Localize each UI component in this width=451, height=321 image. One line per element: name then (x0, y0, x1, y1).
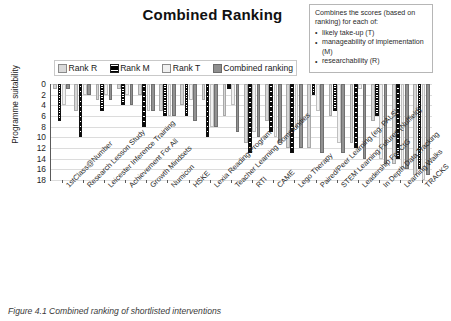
legend-label: Rank R (69, 63, 98, 73)
legend-item-rank-r: Rank R (58, 63, 97, 73)
bar (74, 84, 78, 111)
legend-label: Rank T (173, 63, 201, 73)
bar (193, 84, 197, 121)
bar (257, 84, 261, 137)
bar (130, 84, 134, 105)
bar (147, 84, 151, 111)
bar (138, 84, 142, 95)
bar (244, 84, 248, 143)
x-axis-tick-labels: 1stClass@NumberResearch Lesson StudyLeic… (50, 183, 431, 295)
bar (236, 84, 240, 132)
bullet-icon: • (315, 57, 317, 66)
legend-swatch-icon (58, 64, 67, 73)
bar (358, 84, 362, 89)
y-axis-tick-label: 6 (41, 111, 46, 121)
legend-label: Combined ranking (223, 63, 293, 73)
bar (168, 84, 172, 116)
y-axis-title: Programme suitability (11, 59, 20, 151)
bar (125, 84, 129, 95)
bar (62, 84, 66, 105)
bar (274, 84, 278, 137)
callout-item-label: manageability of implementation (M) (322, 38, 424, 55)
bullet-icon: • (315, 38, 317, 47)
bar (58, 84, 62, 121)
bar (159, 84, 163, 111)
y-axis-tick-label: 18 (37, 175, 46, 185)
bar (231, 84, 235, 105)
y-axis-tick-label: 8 (41, 122, 46, 132)
bar (96, 84, 100, 100)
y-axis-tick-label: 10 (37, 132, 46, 142)
legend-item-rank-m: Rank M (110, 63, 150, 73)
bullet-icon: • (315, 28, 317, 37)
bar-group (199, 84, 220, 180)
legend-swatch-icon (213, 64, 222, 73)
figure-caption: Figure 4.1 Combined ranking of shortlist… (8, 306, 221, 316)
bar (341, 84, 345, 153)
bar (121, 84, 125, 105)
bar (320, 84, 324, 153)
bar (354, 84, 358, 148)
bar (202, 84, 206, 100)
legend-item-rank-t: Rank T (162, 63, 200, 73)
bar (185, 84, 189, 116)
legend-item-combined-ranking: Combined ranking (213, 63, 293, 73)
bar (312, 84, 316, 95)
callout-lead-text: Combines the scores (based on ranking) f… (315, 9, 427, 28)
y-axis-tick-label: 14 (37, 154, 46, 164)
bar-group (51, 84, 72, 180)
bar (290, 84, 294, 153)
callout-item-label: likely take-up (T) (322, 29, 374, 37)
page-title: Combined Ranking (120, 6, 305, 23)
bar (66, 84, 70, 89)
bar (189, 84, 193, 100)
y-axis-tick-label: 4 (41, 100, 46, 110)
bar (333, 84, 337, 111)
bar (53, 84, 57, 89)
legend-label: Rank M (120, 63, 150, 73)
callout-box: Combines the scores (based on ranking) f… (309, 4, 433, 73)
bar (109, 84, 113, 100)
legend-swatch-icon (162, 64, 171, 73)
callout-list-item: • manageability of implementation (M) (315, 38, 427, 57)
bar (83, 84, 87, 95)
bar (163, 84, 167, 116)
bar (87, 84, 91, 95)
legend-swatch-icon (110, 64, 119, 73)
bar (337, 84, 341, 143)
y-axis-tick-label: 0 (41, 79, 46, 89)
bar (79, 84, 83, 137)
bar (117, 84, 121, 89)
callout-list-item: • likely take-up (T) (315, 29, 427, 38)
bar (206, 84, 210, 137)
bar (104, 84, 108, 95)
chart-legend: Rank R Rank M Rank T Combined ranking (54, 60, 297, 76)
bar (329, 84, 333, 116)
bar (371, 84, 375, 121)
bar (252, 84, 256, 132)
callout-list: • likely take-up (T) • manageability of … (315, 29, 427, 67)
bar (151, 84, 155, 111)
y-axis-tick-labels: 024681012141618 (24, 84, 48, 180)
y-axis-tick-label: 2 (41, 90, 46, 100)
bar (227, 84, 231, 89)
y-axis-tick-label: 16 (37, 164, 46, 174)
bar (316, 84, 320, 111)
callout-list-item: • researchability (R) (315, 57, 427, 66)
bar (210, 84, 214, 127)
bar (100, 84, 104, 111)
callout-item-label: researchability (R) (322, 57, 380, 65)
bar (269, 84, 273, 132)
y-axis-tick-label: 12 (37, 143, 46, 153)
bar (180, 84, 184, 105)
bar (350, 84, 354, 143)
bar (223, 84, 227, 116)
bar (214, 84, 218, 127)
bar (265, 84, 269, 121)
bar (172, 84, 176, 116)
bar (375, 84, 379, 116)
bar (142, 84, 146, 127)
